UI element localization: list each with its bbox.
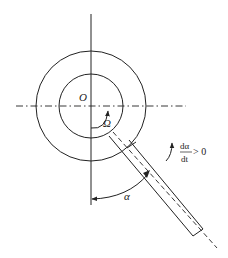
derivative-arrow bbox=[166, 143, 172, 161]
alpha-label: α bbox=[124, 190, 130, 202]
alpha-arrowhead-rod bbox=[143, 170, 150, 178]
derivative-denominator: dt bbox=[181, 154, 189, 164]
rotating-rod-diagram: O Ω α dα dt > 0 bbox=[0, 0, 228, 258]
derivative-numerator: dα bbox=[180, 141, 190, 151]
alpha-arrow bbox=[92, 174, 148, 199]
derivative-relation: > 0 bbox=[193, 146, 206, 157]
omega-label: Ω bbox=[103, 117, 111, 129]
center-label-o: O bbox=[79, 91, 87, 103]
